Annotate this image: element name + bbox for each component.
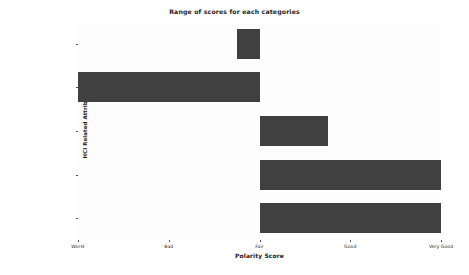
chart-figure: Range of scores for each categories HCI …	[0, 0, 469, 275]
bar-productdescription	[237, 29, 260, 59]
y-tick-mark	[76, 44, 78, 45]
x-axis-title: Polarity Score	[78, 252, 441, 259]
x-tick-label: Good	[310, 244, 390, 249]
x-tick-mark	[169, 240, 170, 242]
plot-area: HCI Related Attributes Polarity Score pr…	[78, 22, 441, 240]
x-tick-label: Fair	[220, 244, 300, 249]
bar-FontSize	[260, 160, 442, 190]
x-tick-label: Bad	[129, 244, 209, 249]
x-tick-mark	[441, 240, 442, 242]
x-tick-label: Worst	[38, 244, 118, 249]
x-tick-mark	[260, 240, 261, 242]
y-tick-mark	[76, 218, 78, 219]
bar-Colors	[260, 203, 442, 233]
bar-ProductComparison	[78, 72, 260, 102]
x-tick-label: Very Good	[401, 244, 469, 249]
y-tick-mark	[76, 131, 78, 132]
x-tick-mark	[78, 240, 79, 242]
y-tick-mark	[76, 175, 78, 176]
x-tick-mark	[350, 240, 351, 242]
chart-title: Range of scores for each categories	[0, 8, 469, 15]
bar-Graphics	[260, 116, 328, 146]
